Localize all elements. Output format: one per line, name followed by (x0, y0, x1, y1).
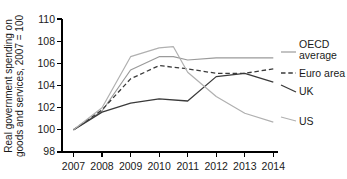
legend-label-us: US (299, 115, 314, 127)
x-tick-label: 2008 (90, 160, 114, 172)
chart-figure: Real government spending on goods and se… (0, 0, 347, 179)
y-axis-ticks (57, 19, 62, 152)
x-tick-label: 2007 (62, 160, 86, 172)
y-tick-label: 98 (43, 145, 55, 157)
legend-label-euro-area: Euro area (299, 67, 345, 79)
line-chart: Real government spending on goods and se… (0, 0, 347, 179)
legend-labels: OECD average Euro area UK US (299, 38, 345, 127)
series-line-us (74, 47, 274, 130)
y-axis-label: Real government spending on goods and se… (3, 15, 25, 157)
y-tick-label: 102 (37, 101, 55, 113)
y-tick-label: 110 (38, 13, 55, 25)
x-tick-label: 2013 (233, 160, 257, 172)
uk-legend-line (281, 85, 296, 92)
legend-line-stubs (281, 52, 296, 121)
x-tick-label: 2012 (205, 160, 229, 172)
x-axis-ticks (74, 152, 274, 157)
series-line-euro-area (74, 66, 274, 130)
x-tick-label: 2014 (262, 160, 286, 172)
legend-label-uk: UK (299, 85, 314, 97)
series-line-oecd-average (74, 57, 274, 130)
y-tick-label: 104 (37, 79, 55, 91)
y-axis-label-line1: Real government spending on (3, 19, 14, 152)
series-line-uk (74, 73, 274, 130)
data-series-group (74, 47, 274, 130)
x-axis-tick-labels: 2007 2008 2009 2010 2011 2012 2013 2014 (62, 160, 285, 172)
legend-label-oecd-line2: average (299, 49, 337, 61)
y-tick-label: 108 (37, 35, 55, 47)
x-tick-label: 2010 (147, 160, 171, 172)
us-legend-line (281, 117, 296, 121)
y-axis-tick-labels: 110 108 106 104 102 100 98 (37, 13, 55, 157)
y-tick-label: 106 (37, 57, 55, 69)
x-tick-label: 2009 (119, 160, 143, 172)
y-tick-label: 100 (37, 123, 55, 135)
y-axis-label-line2: goods and services, 2007 = 100 (14, 15, 25, 157)
x-tick-label: 2011 (176, 160, 199, 172)
